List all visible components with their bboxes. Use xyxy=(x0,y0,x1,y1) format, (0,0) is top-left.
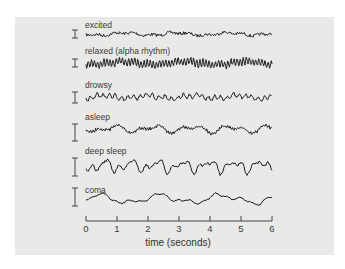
scale-bar-excited xyxy=(72,30,78,38)
x-tick-labels: 0123456 xyxy=(83,223,274,234)
scale-bar-drowsy xyxy=(72,92,78,103)
trace-asleep xyxy=(86,124,272,135)
trace-relaxed xyxy=(86,57,272,69)
label-asleep: asleep xyxy=(85,112,110,122)
eeg-traces xyxy=(86,31,272,205)
scale-bars xyxy=(72,30,78,206)
trace-deep-sleep xyxy=(86,159,272,175)
scale-bar-asleep xyxy=(72,124,78,141)
scale-bar-deep-sleep xyxy=(72,158,78,176)
label-deep-sleep: deep sleep xyxy=(85,146,127,156)
x-tick-label: 3 xyxy=(176,223,181,234)
x-tick-label: 4 xyxy=(207,223,212,234)
trace-drowsy xyxy=(86,92,272,101)
x-tick-label: 6 xyxy=(269,223,274,234)
scale-bar-relaxed xyxy=(72,59,78,67)
eeg-chart: excited relaxed (alpha rhythm) drowsy as… xyxy=(0,0,345,269)
x-tick-label: 2 xyxy=(145,223,150,234)
trace-coma xyxy=(86,193,272,206)
label-drowsy: drowsy xyxy=(85,80,113,90)
label-relaxed: relaxed (alpha rhythm) xyxy=(85,46,170,56)
label-excited: excited xyxy=(85,20,112,30)
scale-bar-coma xyxy=(72,188,78,206)
x-tick-label: 5 xyxy=(238,223,243,234)
x-tick-label: 1 xyxy=(114,223,119,234)
label-coma: coma xyxy=(85,185,106,195)
x-axis-title: time (seconds) xyxy=(145,237,211,248)
x-tick-label: 0 xyxy=(83,223,88,234)
trace-excited xyxy=(86,31,272,37)
x-axis xyxy=(86,216,272,221)
